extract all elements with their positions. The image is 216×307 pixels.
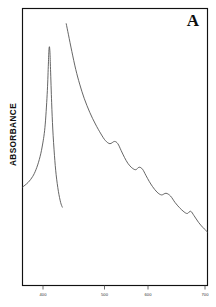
panel-letter: A bbox=[187, 11, 200, 30]
x-axis-ticks bbox=[43, 286, 205, 290]
spectrum-figure: ABSORBANCE 400 500 600 700 A bbox=[0, 0, 216, 307]
x-tick-label-500: 500 bbox=[101, 292, 109, 297]
plot-area: 400 500 600 700 A bbox=[0, 0, 216, 307]
spectrum-trace-soret bbox=[23, 47, 63, 207]
x-axis-tick-labels: 400 500 600 700 bbox=[39, 292, 209, 297]
x-tick-label-700: 700 bbox=[201, 292, 209, 297]
plot-frame bbox=[23, 9, 208, 286]
spectrum-traces bbox=[23, 24, 208, 232]
x-tick-label-600: 600 bbox=[144, 292, 152, 297]
x-tick-label-400: 400 bbox=[39, 292, 47, 297]
spectrum-trace-visible bbox=[66, 24, 207, 232]
